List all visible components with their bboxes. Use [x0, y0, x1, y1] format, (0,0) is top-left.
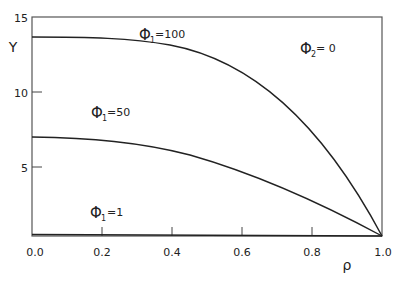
x-tick-label-0.6: 0.6 [233, 246, 251, 259]
svg-text:=100: =100 [155, 28, 185, 41]
x-tick-label-0.4: 0.4 [163, 246, 181, 259]
svg-text:= 0: = 0 [316, 42, 336, 55]
svg-text:=50: =50 [107, 106, 130, 119]
annotation-phi1-100: Φ 1 =100 [139, 26, 185, 45]
y-tick-label-5: 5 [21, 162, 28, 175]
y-tick-label-10: 10 [14, 87, 28, 100]
svg-text:=1: =1 [107, 206, 123, 219]
x-axis: 0.0 0.2 0.4 0.6 0.8 1.0 ρ [26, 227, 392, 273]
y-tick-label-15: 15 [14, 12, 28, 25]
y-axis-label: Y [8, 39, 18, 55]
curve-phi1-50 [32, 137, 382, 236]
chart: 15 10 5 Y 0.0 0.2 0.4 0.6 0.8 1.0 ρ Φ 1 … [0, 0, 399, 282]
x-tick-label-0.2: 0.2 [93, 246, 111, 259]
curve-phi1-100 [32, 37, 382, 236]
annotation-phi2-0: Φ 2 = 0 [300, 40, 336, 59]
x-tick-label-0.8: 0.8 [303, 246, 321, 259]
x-tick-label-0.0: 0.0 [26, 246, 44, 259]
annotation-phi1-50: Φ 1 =50 [91, 104, 130, 123]
x-axis-label: ρ [343, 257, 352, 273]
x-tick-label-1.0: 1.0 [374, 246, 392, 259]
annotation-phi1-1: Φ 1 =1 [90, 204, 123, 223]
svg-text:1: 1 [101, 214, 106, 223]
